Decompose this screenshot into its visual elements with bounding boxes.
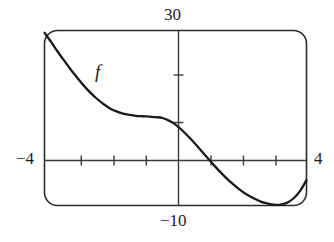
graph-plot — [0, 0, 334, 242]
figure-canvas: 30 −10 −4 4 f — [0, 0, 334, 242]
curve-label-f: f — [95, 62, 100, 81]
x-max-label: 4 — [314, 150, 323, 167]
function-curve-f — [45, 33, 307, 205]
y-max-label: 30 — [164, 6, 181, 23]
y-min-label: −10 — [160, 212, 187, 229]
viewing-window-frame — [45, 31, 307, 206]
x-min-label: −4 — [16, 150, 34, 167]
